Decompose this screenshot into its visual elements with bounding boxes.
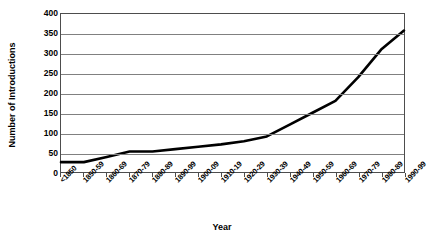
series-line-introductions	[61, 14, 404, 172]
plot-area	[60, 13, 405, 173]
y-tick-label-0: 0	[24, 169, 58, 177]
y-tick-label-50: 50	[24, 149, 58, 157]
y-tick-label-250: 250	[24, 69, 58, 77]
gridline-150	[61, 114, 404, 115]
y-axis-title: Number of Introductions	[6, 43, 16, 148]
gridline-350	[61, 34, 404, 35]
x-tick-label-15: 1990-99	[403, 160, 428, 185]
y-tick-label-350: 350	[24, 29, 58, 37]
gridline-100	[61, 134, 404, 135]
gridline-300	[61, 54, 404, 55]
x-axis-title: Year	[212, 222, 231, 232]
y-tick-label-200: 200	[24, 89, 58, 97]
gridline-200	[61, 94, 404, 95]
x-axis-title-wrap: Year	[0, 222, 416, 232]
y-axis-tick-labels: 050100150200250300350400	[22, 0, 58, 190]
y-tick-label-400: 400	[24, 9, 58, 17]
gridline-50	[61, 154, 404, 155]
gridline-250	[61, 74, 404, 75]
x-axis-tick-labels: <18501850-591860-691870-791880-891890-99…	[0, 178, 416, 222]
y-tick-label-100: 100	[24, 129, 58, 137]
y-axis-title-wrap: Number of Introductions	[0, 0, 22, 190]
y-tick-label-150: 150	[24, 109, 58, 117]
y-tick-label-300: 300	[24, 49, 58, 57]
